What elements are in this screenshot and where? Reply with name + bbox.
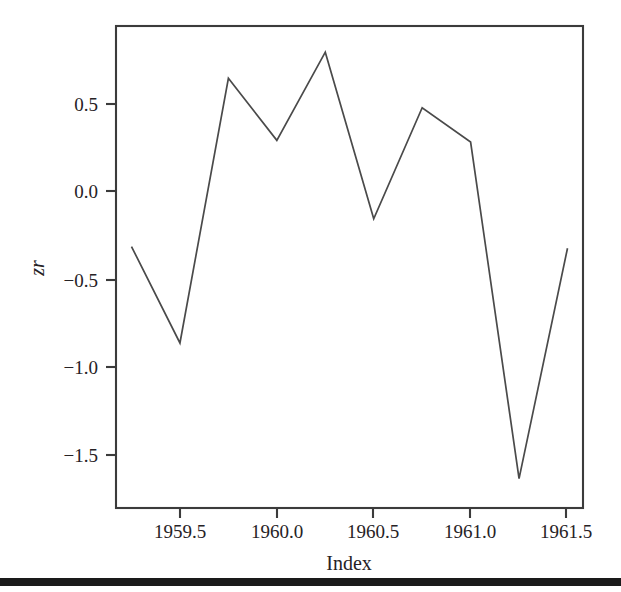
figure-container: 0.5 0.0 −0.5 −1.0 −1.5 1959.5 1960.0 196… [0, 0, 621, 592]
x-axis-title: Index [326, 552, 372, 574]
y-tick-label-0: 0.5 [74, 94, 98, 115]
y-tick-label-4: −1.5 [64, 445, 98, 466]
x-tick-label-2: 1960.5 [347, 521, 399, 542]
y-tick-label-3: −1.0 [64, 357, 98, 378]
chart-background [0, 0, 621, 592]
line-chart: 0.5 0.0 −0.5 −1.0 −1.5 1959.5 1960.0 196… [0, 0, 621, 592]
x-tick-label-0: 1959.5 [154, 521, 206, 542]
x-tick-label-1: 1960.0 [251, 521, 303, 542]
y-tick-label-1: 0.0 [74, 181, 98, 202]
y-tick-label-2: −0.5 [64, 270, 98, 291]
x-tick-label-3: 1961.0 [444, 521, 496, 542]
scan-page-edge-bar [0, 578, 621, 586]
y-axis-title: zr [26, 260, 48, 277]
x-tick-label-4: 1961.5 [540, 521, 592, 542]
